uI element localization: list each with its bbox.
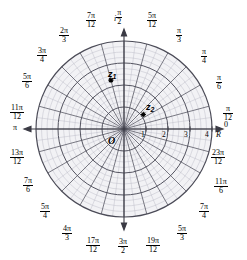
angle-label-3pi-over-4: 3π4: [37, 46, 47, 64]
angle-label-23pi-over-12: 23π12: [211, 148, 225, 166]
angle-label-5pi-over-3: 5π3: [177, 224, 187, 242]
angle-label-17pi-over-12: 17π12: [86, 236, 100, 254]
angle-label-5pi-over-12: 5π12: [147, 11, 157, 29]
principal-axes: [24, 29, 223, 230]
angle-label-pi-over-3: π3: [176, 26, 182, 44]
radial-tick-label-2: 2: [162, 131, 166, 139]
angle-label-4pi-over-3: 4π3: [62, 224, 72, 242]
angle-label-7pi-over-4: 7π4: [199, 202, 209, 220]
angle-label-5pi-over-4: 5π4: [40, 202, 50, 220]
angle-label-pi-over-4: π4: [201, 47, 207, 65]
angle-label-pi: π: [13, 124, 17, 132]
angle-label-pi-over-2: iπ2: [114, 8, 122, 26]
angle-label-5pi-over-6: 5π6: [22, 72, 32, 90]
angle-label-pi-over-12: π12: [223, 104, 233, 122]
radial-tick-label-4: 4: [205, 131, 209, 139]
angle-label-7pi-over-12: 7π12: [86, 11, 96, 29]
polar-plot-figure: 0 π12 π6 π4 π3 5π12 iπ2 7π12 2π3 3π4 5π6…: [0, 0, 247, 260]
point-label-z2: z2: [146, 103, 154, 113]
polar-grid-svg: [0, 0, 247, 260]
radial-tick-label-3: 3: [184, 131, 188, 139]
angle-label-11pi-over-6: 11π6: [214, 177, 228, 195]
point-label-z1: z1: [108, 70, 116, 80]
real-axis-label: R: [216, 131, 221, 139]
angle-label-7pi-over-6: 7π6: [23, 176, 33, 194]
angle-label-3pi-over-2: 3π2: [118, 237, 128, 255]
angle-label-2pi-over-3: 2π3: [59, 26, 69, 44]
angle-label-pi-over-6: π6: [216, 73, 222, 91]
angle-label-0: 0: [224, 121, 228, 129]
angle-label-11pi-over-12: 11π12: [10, 103, 24, 121]
angle-label-19pi-over-12: 19π12: [146, 236, 160, 254]
angle-label-13pi-over-12: 13π12: [10, 148, 24, 166]
radial-tick-label-1: 1: [141, 131, 145, 139]
origin-label: O: [108, 136, 115, 146]
